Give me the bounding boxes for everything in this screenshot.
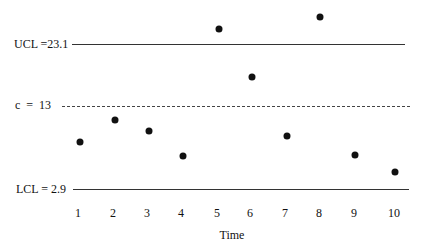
data-point-8	[317, 14, 324, 21]
x-tick: 8	[316, 207, 322, 219]
x-tick: 6	[247, 207, 253, 219]
data-point-4	[180, 153, 187, 160]
control-chart: UCL =23.1 c = 13 LCL = 2.9 1 2 3 4 5 6 7…	[0, 0, 428, 246]
data-point-9	[352, 152, 359, 159]
data-point-2	[112, 117, 119, 124]
x-tick: 7	[282, 207, 288, 219]
lcl-line	[73, 189, 409, 190]
x-axis-label: Time	[220, 229, 245, 241]
x-tick: 5	[214, 207, 220, 219]
lcl-label: LCL = 2.9	[16, 183, 66, 195]
x-tick: 9	[351, 207, 357, 219]
data-point-1	[77, 139, 84, 146]
ucl-line	[72, 44, 405, 45]
ucl-label: UCL =23.1	[14, 38, 68, 50]
x-tick: 4	[178, 207, 184, 219]
data-point-3	[146, 128, 153, 135]
data-point-6	[249, 74, 256, 81]
x-tick: 10	[388, 207, 400, 219]
center-line	[62, 106, 410, 107]
x-tick: 3	[144, 207, 150, 219]
data-point-5	[216, 26, 223, 33]
center-line-label: c = 13	[15, 99, 51, 111]
data-point-10	[392, 169, 399, 176]
x-tick: 1	[75, 207, 81, 219]
data-point-7	[284, 133, 291, 140]
x-tick: 2	[110, 207, 116, 219]
